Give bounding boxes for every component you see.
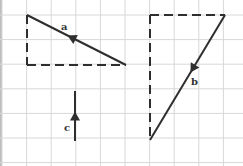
arrowhead-icon	[70, 112, 80, 121]
vector-diagram: abc	[0, 0, 243, 166]
vector-label-c: c	[64, 122, 70, 133]
vector-label-b: b	[191, 76, 198, 87]
diagram-canvas: abc	[0, 0, 243, 166]
vector-b-line	[150, 15, 225, 140]
vector-label-a: a	[61, 21, 68, 32]
